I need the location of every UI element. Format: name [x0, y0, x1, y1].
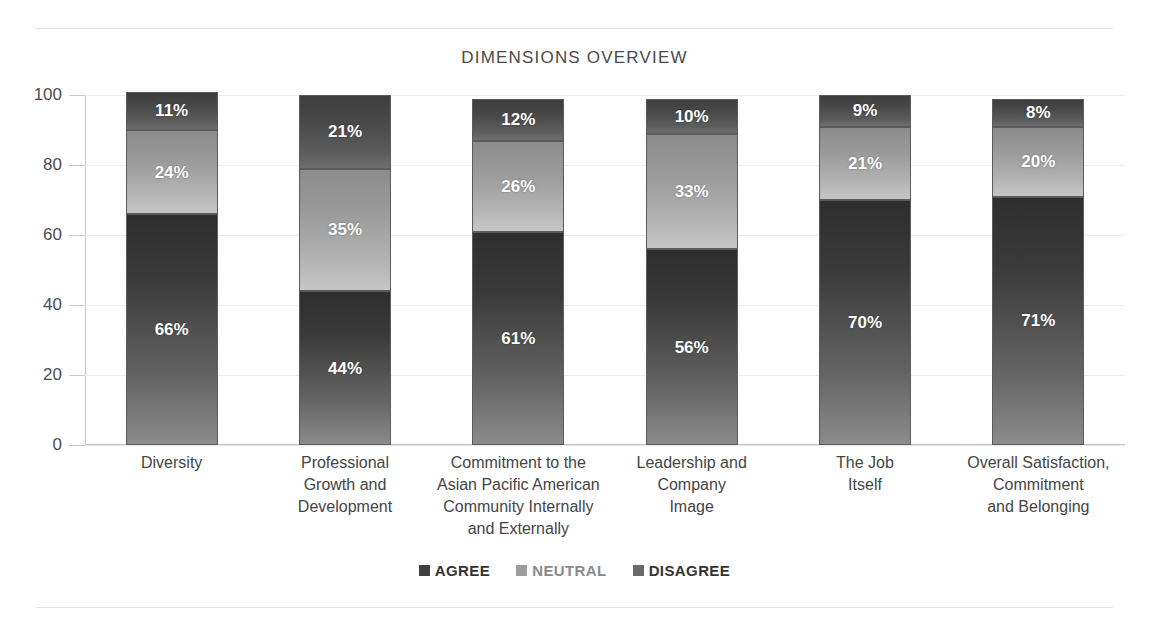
- bar-segment-value-label: 24%: [155, 164, 189, 181]
- x-axis-category-label: Leadership andCompanyImage: [606, 452, 778, 518]
- category-label-line: Leadership and: [606, 452, 778, 474]
- bar-segment-disagree[interactable]: 9%: [819, 95, 911, 127]
- bar-segment-value-label: 10%: [675, 108, 709, 125]
- category-label-line: and Externally: [432, 518, 604, 540]
- bar-group[interactable]: 44%35%21%: [299, 95, 391, 445]
- x-axis-category-labels: DiversityProfessionalGrowth andDevelopme…: [85, 452, 1125, 562]
- x-axis-category-label: Diversity: [86, 452, 258, 474]
- bar-group[interactable]: 61%26%12%: [472, 95, 564, 445]
- bar-group[interactable]: 71%20%8%: [992, 95, 1084, 445]
- legend-label: NEUTRAL: [532, 562, 606, 579]
- y-axis-tick: [69, 375, 85, 376]
- gridline: [85, 445, 1125, 446]
- category-label-line: and Belonging: [952, 496, 1124, 518]
- category-label-line: Growth and: [259, 474, 431, 496]
- legend-swatch-icon: [419, 565, 430, 576]
- y-axis-tick-label: 60: [43, 225, 62, 245]
- legend-label: AGREE: [435, 562, 490, 579]
- bar-segment-value-label: 44%: [328, 360, 362, 377]
- y-axis-tick: [69, 95, 85, 96]
- bar-segment-value-label: 21%: [328, 123, 362, 140]
- y-axis-tick-label: 100: [34, 85, 62, 105]
- bar-segment-agree[interactable]: 66%: [126, 214, 218, 445]
- bar-segment-value-label: 26%: [501, 178, 535, 195]
- category-label-line: Commitment: [952, 474, 1124, 496]
- bar-segment-value-label: 61%: [501, 330, 535, 347]
- bar-segment-value-label: 12%: [501, 111, 535, 128]
- bar-segment-neutral[interactable]: 24%: [126, 130, 218, 214]
- bar-segment-neutral[interactable]: 21%: [819, 127, 911, 201]
- legend-item-disagree[interactable]: DISAGREE: [633, 562, 731, 579]
- bar-segment-disagree[interactable]: 10%: [646, 99, 738, 134]
- bar-group[interactable]: 56%33%10%: [646, 95, 738, 445]
- bar-segment-agree[interactable]: 61%: [472, 232, 564, 446]
- bar-group[interactable]: 70%21%9%: [819, 95, 911, 445]
- x-axis-category-label: The JobItself: [779, 452, 951, 496]
- bar-segment-value-label: 11%: [155, 102, 188, 119]
- legend-label: DISAGREE: [649, 562, 731, 579]
- bar-segment-value-label: 56%: [675, 339, 709, 356]
- bar-segment-disagree[interactable]: 21%: [299, 95, 391, 169]
- legend-item-agree[interactable]: AGREE: [419, 562, 490, 579]
- bar-segment-neutral[interactable]: 33%: [646, 134, 738, 250]
- category-label-line: Commitment to the: [432, 452, 604, 474]
- x-axis-category-label: ProfessionalGrowth andDevelopment: [259, 452, 431, 518]
- bar-segment-value-label: 71%: [1021, 312, 1055, 329]
- y-axis-tick: [69, 445, 85, 446]
- bar-segment-agree[interactable]: 44%: [299, 291, 391, 445]
- bar-segment-value-label: 33%: [675, 183, 709, 200]
- bar-segment-neutral[interactable]: 20%: [992, 127, 1084, 197]
- category-label-line: Itself: [779, 474, 951, 496]
- x-axis-category-label: Commitment to theAsian Pacific AmericanC…: [432, 452, 604, 540]
- bar-segment-value-label: 35%: [328, 221, 362, 238]
- bar-segment-neutral[interactable]: 26%: [472, 141, 564, 232]
- category-label-line: Image: [606, 496, 778, 518]
- category-label-line: Development: [259, 496, 431, 518]
- chart-title: DIMENSIONS OVERVIEW: [0, 48, 1149, 68]
- y-axis-tick-label: 0: [53, 435, 62, 455]
- category-label-line: Professional: [259, 452, 431, 474]
- chart-legend: AGREENEUTRALDISAGREE: [0, 562, 1149, 579]
- bar-segment-value-label: 66%: [155, 321, 189, 338]
- category-label-line: Overall Satisfaction,: [952, 452, 1124, 474]
- y-axis-tick: [69, 165, 85, 166]
- bar-segment-agree[interactable]: 56%: [646, 249, 738, 445]
- bar-segment-agree[interactable]: 70%: [819, 200, 911, 445]
- dimensions-overview-chart: DIMENSIONS OVERVIEW 020406080100 66%24%1…: [0, 0, 1149, 623]
- bar-segment-value-label: 70%: [848, 314, 882, 331]
- bar-group[interactable]: 66%24%11%: [126, 95, 218, 445]
- legend-swatch-icon: [633, 565, 644, 576]
- y-axis-tick-label: 80: [43, 155, 62, 175]
- bar-series-container: 66%24%11%44%35%21%61%26%12%56%33%10%70%2…: [85, 95, 1125, 445]
- legend-item-neutral[interactable]: NEUTRAL: [516, 562, 606, 579]
- bar-segment-value-label: 8%: [1026, 104, 1051, 121]
- bar-segment-value-label: 9%: [853, 102, 878, 119]
- bar-segment-value-label: 21%: [848, 155, 882, 172]
- category-label-line: Community Internally: [432, 496, 604, 518]
- legend-swatch-icon: [516, 565, 527, 576]
- y-axis-tick-label: 40: [43, 295, 62, 315]
- y-axis-tick-label: 20: [43, 365, 62, 385]
- bar-segment-disagree[interactable]: 12%: [472, 99, 564, 141]
- bar-segment-neutral[interactable]: 35%: [299, 169, 391, 292]
- x-axis-category-label: Overall Satisfaction,Commitmentand Belon…: [952, 452, 1124, 518]
- bar-segment-agree[interactable]: 71%: [992, 197, 1084, 446]
- category-label-line: Asian Pacific American: [432, 474, 604, 496]
- bar-segment-value-label: 20%: [1021, 153, 1055, 170]
- y-axis-tick: [69, 235, 85, 236]
- bar-segment-disagree[interactable]: 8%: [992, 99, 1084, 127]
- category-label-line: Company: [606, 474, 778, 496]
- y-axis-tick-labels: 020406080100: [0, 95, 70, 445]
- bar-segment-disagree[interactable]: 11%: [126, 92, 218, 131]
- category-label-line: Diversity: [86, 452, 258, 474]
- y-axis-tick: [69, 305, 85, 306]
- category-label-line: The Job: [779, 452, 951, 474]
